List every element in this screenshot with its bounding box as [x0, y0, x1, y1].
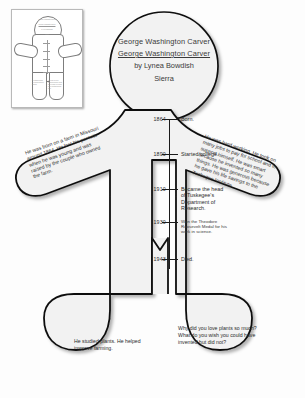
timeline-tick — [162, 259, 178, 260]
timeline-tick — [162, 119, 178, 120]
worksheet-page: George Washington Carver George Washingt… — [0, 0, 305, 398]
timeline-axis — [169, 119, 170, 269]
left-leg-text: He studied plants. He helped improve far… — [74, 338, 156, 352]
student-name: Sierra — [104, 72, 224, 86]
timeline-tick — [162, 189, 178, 190]
book-author: by Lynea Bowdish — [104, 60, 224, 72]
timeline-tick — [162, 222, 178, 223]
timeline-detail: Won the Theodore Roosevelt Medal for his… — [181, 219, 229, 235]
timeline-label: Born. — [181, 116, 229, 122]
timeline-label: Died. — [181, 256, 229, 262]
timeline-label: Became the head of Tuskegee's Department… — [181, 186, 229, 212]
body-biography-figure: George Washington Carver George Washingt… — [0, 0, 305, 398]
book-title: George Washington Carver — [104, 36, 224, 48]
book-title-repeat: George Washington Carver — [104, 48, 224, 60]
right-leg-text: Why did you love plants so much? What do… — [178, 325, 260, 346]
timeline-tick — [162, 154, 178, 155]
head-title-block: George Washington Carver George Washingt… — [104, 36, 224, 86]
